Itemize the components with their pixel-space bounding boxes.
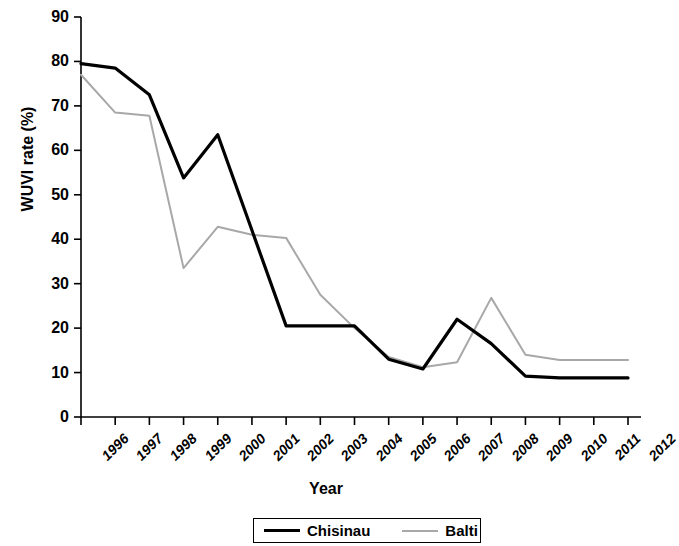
chart-legend: Chisinau Balti	[253, 518, 481, 543]
y-tick-label: 10	[35, 365, 69, 381]
y-tick-label: 50	[35, 187, 69, 203]
axes	[74, 17, 641, 425]
legend-item-balti: Balti	[392, 519, 478, 542]
y-tick-label: 30	[35, 276, 69, 292]
series-line-chisinau	[81, 64, 628, 378]
y-tick-label: 70	[35, 98, 69, 114]
legend-label-chisinau: Chisinau	[307, 522, 370, 539]
y-tick-label: 0	[35, 409, 69, 425]
y-tick-label: 90	[35, 9, 69, 25]
legend-label-balti: Balti	[445, 522, 478, 539]
y-tick-label: 60	[35, 142, 69, 158]
x-axis-title: Year	[0, 480, 652, 498]
legend-swatch-chisinau	[264, 529, 300, 532]
data-series	[81, 64, 628, 378]
y-tick-label: 40	[35, 231, 69, 247]
y-tick-label: 20	[35, 320, 69, 336]
y-tick-label: 80	[35, 53, 69, 69]
legend-swatch-balti	[402, 530, 438, 532]
y-axis-title: WUVI rate (%)	[19, 69, 37, 249]
legend-item-chisinau: Chisinau	[254, 519, 370, 542]
series-line-balti	[81, 75, 628, 367]
